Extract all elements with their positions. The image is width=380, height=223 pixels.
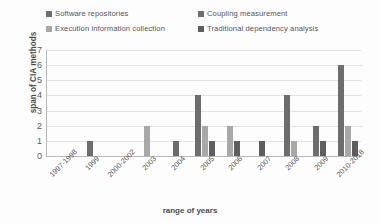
bar — [144, 126, 150, 156]
legend-label: Software repositories — [55, 10, 128, 18]
bar-group — [333, 50, 362, 156]
x-tick: 2007 — [246, 158, 275, 204]
legend-item-coupling-measurement: Coupling measurement — [198, 10, 346, 18]
x-tick: 2008 — [275, 158, 304, 204]
bar-group — [276, 50, 305, 156]
y-tick-label: 4 — [37, 90, 42, 100]
x-tick: 2004 — [161, 158, 190, 204]
x-axis-ticks: 1997-199819992000-2002200320042005200620… — [46, 158, 361, 204]
bar-group — [305, 50, 334, 156]
y-axis-title: span of CIA methods — [29, 18, 38, 128]
y-tick-label: 0 — [37, 151, 42, 161]
x-tick: 2010-2018 — [332, 158, 361, 204]
legend-item-traditional-dependency-analysis: Traditional dependency analysis — [198, 25, 346, 33]
legend-label: Execution information collection — [55, 25, 165, 33]
bar-group — [162, 50, 191, 156]
bar-groups — [47, 50, 362, 156]
y-tick-label: 6 — [37, 60, 42, 70]
x-tick: 2005 — [189, 158, 218, 204]
x-tick: 2006 — [218, 158, 247, 204]
legend-swatch-icon — [46, 11, 52, 17]
bar — [338, 65, 344, 156]
y-tick-label: 5 — [37, 75, 42, 85]
legend-swatch-icon — [198, 11, 204, 17]
bar — [202, 126, 208, 156]
chart-figure: Software repositories Coupling measureme… — [0, 0, 380, 223]
x-tick: 1999 — [75, 158, 104, 204]
x-tick: 1997-1998 — [46, 158, 75, 204]
y-tick-label: 7 — [37, 45, 42, 55]
y-tick-label: 1 — [37, 136, 42, 146]
bar — [227, 126, 233, 156]
bar-group — [190, 50, 219, 156]
legend-swatch-icon — [46, 26, 52, 32]
y-tick-label: 3 — [37, 106, 42, 116]
legend-label: Coupling measurement — [207, 10, 288, 18]
legend-item-software-repositories: Software repositories — [46, 10, 198, 18]
x-tick: 2003 — [132, 158, 161, 204]
plot-area — [46, 50, 362, 157]
chart-legend: Software repositories Coupling measureme… — [46, 6, 346, 36]
bar-group — [247, 50, 276, 156]
bar-group — [133, 50, 162, 156]
bar-group — [76, 50, 105, 156]
bar — [284, 95, 290, 156]
x-axis-title: range of years — [0, 206, 380, 215]
x-tick: 2000-2002 — [103, 158, 132, 204]
bar — [195, 95, 201, 156]
x-tick: 2009 — [304, 158, 333, 204]
legend-item-execution-information-collection: Execution information collection — [46, 25, 198, 33]
bar-group — [219, 50, 248, 156]
y-tick-label: 2 — [37, 121, 42, 131]
legend-label: Traditional dependency analysis — [207, 25, 318, 33]
bar — [173, 141, 179, 156]
legend-swatch-icon — [198, 26, 204, 32]
bar — [313, 126, 319, 156]
bar — [345, 126, 351, 156]
bar-group — [47, 50, 76, 156]
bar-group — [104, 50, 133, 156]
bar — [259, 141, 265, 156]
bar — [87, 141, 93, 156]
